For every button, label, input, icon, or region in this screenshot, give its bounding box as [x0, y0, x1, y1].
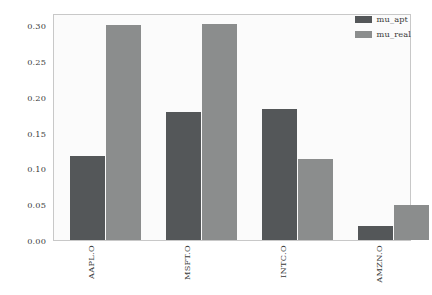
y-tick-label-0.25: 0.25 [4, 57, 46, 67]
x-tick-label-intc: INTC.O [278, 245, 288, 278]
bar-intc-mu-apt[interactable] [262, 109, 297, 240]
legend-swatch-mu-apt [355, 16, 372, 23]
bar-group-intc [262, 13, 336, 240]
bar-group-aapl [70, 13, 144, 240]
y-tick-label-0.10: 0.10 [4, 164, 46, 174]
axis-spine-left [53, 14, 54, 241]
bar-msft-mu-real[interactable] [202, 24, 237, 240]
y-tick-label-0.00: 0.00 [4, 236, 46, 246]
legend-entry-mu-real[interactable]: mu_real [355, 29, 411, 39]
legend: mu_apt mu_real [355, 14, 411, 39]
legend-swatch-mu-real [355, 31, 372, 38]
legend-entry-mu-apt[interactable]: mu_apt [355, 14, 411, 24]
x-tick-text-intc: INTC.O [278, 245, 288, 278]
bar-amzn-mu-apt[interactable] [358, 226, 393, 240]
x-tick-label-msft: MSFT.O [182, 245, 192, 280]
bar-aapl-mu-apt[interactable] [70, 156, 105, 240]
legend-label-mu-apt: mu_apt [377, 14, 408, 24]
plot-area [53, 14, 411, 241]
x-tick-text-msft: MSFT.O [182, 245, 192, 280]
y-tick-label-0.15: 0.15 [4, 129, 46, 139]
bar-aapl-mu-real[interactable] [106, 25, 141, 240]
bar-msft-mu-apt[interactable] [166, 112, 201, 240]
bar-group-amzn [358, 13, 432, 240]
axis-spine-bottom [53, 240, 411, 241]
y-tick-label-0.05: 0.05 [4, 200, 46, 210]
x-tick-text-aapl: AAPL.O [86, 245, 96, 279]
x-tick-label-aapl: AAPL.O [86, 245, 96, 279]
y-tick-label-0.20: 0.20 [4, 93, 46, 103]
bar-intc-mu-real[interactable] [298, 159, 333, 240]
x-tick-label-amzn: AMZN.O [374, 245, 384, 283]
bar-group-msft [166, 13, 240, 240]
x-tick-text-amzn: AMZN.O [374, 245, 384, 283]
bar-amzn-mu-real[interactable] [394, 205, 429, 240]
y-tick-label-0.30: 0.30 [4, 21, 46, 31]
legend-label-mu-real: mu_real [377, 29, 411, 39]
